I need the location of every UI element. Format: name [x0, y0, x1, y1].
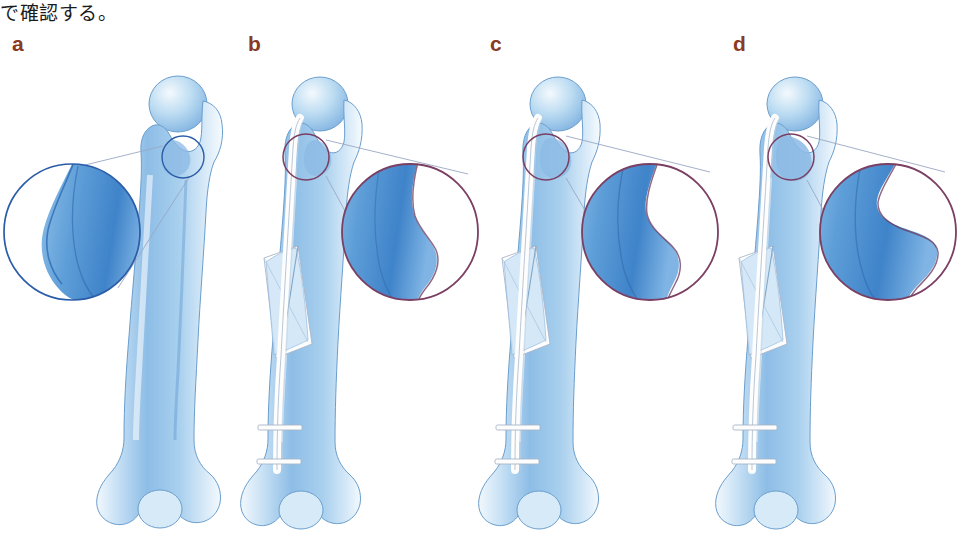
femur-body-a — [97, 101, 223, 525]
panel-c: c — [482, 0, 722, 536]
panel-a: a — [0, 0, 240, 536]
figure-canvas: で確認する。 — [0, 0, 961, 536]
patellar-surface-c — [517, 491, 561, 529]
lesser-trochanter-c — [540, 138, 571, 178]
locking-screw-distal[interactable] — [257, 459, 301, 464]
femur-illustration-c — [482, 0, 722, 536]
magnifier-inset-d[interactable] — [807, 160, 956, 312]
femoral-head — [149, 76, 207, 132]
magnifier-inset-b[interactable] — [330, 160, 478, 308]
magnifier-inset-a[interactable] — [4, 160, 152, 303]
patellar-surface-b — [279, 491, 323, 529]
panel-label-b: b — [248, 33, 261, 54]
patellar-surface-d — [754, 491, 798, 529]
panel-label-a: a — [12, 33, 24, 54]
locking-screw-proximal[interactable] — [496, 425, 540, 430]
locking-screw-proximal[interactable] — [733, 425, 777, 430]
patellar-surface-a — [138, 490, 182, 528]
locking-screw-distal[interactable] — [732, 459, 776, 464]
locking-screw-proximal[interactable] — [258, 425, 302, 430]
femur-illustration-b — [240, 0, 480, 536]
magnifier-inset-c[interactable] — [570, 160, 718, 310]
lesser-trochanter-b — [304, 140, 331, 176]
panel-d: d — [721, 0, 961, 536]
locking-screw-distal[interactable] — [495, 459, 539, 464]
femur-illustration-d — [721, 0, 961, 536]
femur-illustration-a — [0, 0, 240, 536]
panel-b: b — [240, 0, 480, 536]
panel-label-d: d — [733, 33, 746, 54]
panel-label-c: c — [490, 33, 502, 54]
